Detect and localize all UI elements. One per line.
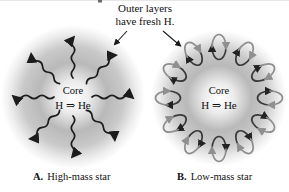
annotation-line-1: Outer layers xyxy=(88,2,202,15)
star-a-core-labels: Core H ⇒ He xyxy=(38,84,108,112)
caption-a-text: High-mass star xyxy=(47,171,110,182)
top-hairline xyxy=(0,0,289,1)
caption-star-a: A.High-mass star xyxy=(33,171,111,182)
annotation-line-2: have fresh H. xyxy=(88,15,202,28)
caption-a-letter: A. xyxy=(33,171,43,182)
figure-stellar-energy-transport: Outer layers have fresh H. Core H ⇒ He C… xyxy=(0,0,289,192)
annotation-arrow-left-icon xyxy=(115,31,127,44)
star-b-reaction-label: H ⇒ He xyxy=(184,98,254,112)
caption-b-text: Low-mass star xyxy=(191,171,253,182)
caption-star-b: B.Low-mass star xyxy=(177,171,252,182)
annotation-label: Outer layers have fresh H. xyxy=(88,2,202,28)
star-a-core-label: Core xyxy=(38,84,108,98)
star-b-core-labels: Core H ⇒ He xyxy=(184,84,254,112)
annotation-arrow-right-icon xyxy=(163,31,180,46)
star-a-reaction-label: H ⇒ He xyxy=(38,98,108,112)
star-b-core-label: Core xyxy=(184,84,254,98)
caption-b-letter: B. xyxy=(177,171,187,182)
